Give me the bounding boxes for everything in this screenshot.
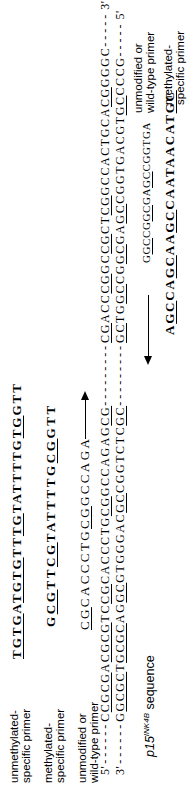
sequence-segment: CCCG: [113, 56, 127, 95]
sequence-segment: CG: [113, 264, 127, 284]
gene-name: p15: [143, 736, 157, 757]
sequence-segment: GC: [113, 323, 127, 343]
sequence-segment: GTGGGAC: [113, 513, 127, 583]
top-strand-tail-dashes: -----: [99, 12, 111, 47]
bottom-strand-5prime-end: 5': [114, 8, 126, 21]
methylated-primer-label-line1: methylated-: [42, 709, 54, 783]
sequence-segment: TATTTTG: [9, 438, 24, 513]
top-strand-3prime-end: 3': [99, 0, 111, 12]
genomic-top-strand: 5'------CCGCGACGCGTCCGCACCCTGCGGCCAGAGCG…: [99, 0, 111, 777]
sequence-segment: GTT: [43, 403, 58, 438]
sequence-segment: A: [98, 662, 112, 672]
bottom-strand-sequence-2: GCTGGCCGGCGAGCCGGTGACGTGCCCCG: [114, 56, 126, 342]
sequence-segment: CGGTCTC: [113, 426, 127, 493]
sequence-segment: GC: [140, 205, 152, 221]
sequence-segment: GC: [162, 301, 177, 324]
gene-sequence-label: p15INK4B sequence: [142, 655, 157, 757]
wildtype-reverse-primer-label: unmodified or wild-type primer: [132, 32, 156, 113]
sequence-segment: CG: [98, 323, 112, 343]
sequence-segment: AG: [113, 603, 127, 624]
sequence-segment: A: [9, 603, 24, 613]
sequence-segment: CG: [98, 584, 112, 604]
sequence-segment: CACCCTG: [98, 516, 112, 584]
msp-primer-diagram: unmethylated- specific primer TGTGATGTGT…: [0, 0, 188, 787]
sequence-segment: TG: [9, 416, 24, 439]
unmethylated-primer-label-line1: unmethylated-: [8, 709, 20, 783]
sequence-segment: GC: [162, 210, 177, 233]
top-strand-5prime-end: 5': [99, 764, 111, 777]
sequence-segment: GC: [113, 95, 127, 115]
sequence-segment: TT: [9, 536, 24, 557]
gene-label-rest: sequence: [143, 655, 157, 713]
bottom-strand-3prime-end: 3': [114, 764, 126, 777]
sequence-segment: CG: [43, 439, 58, 464]
sequence-segment: TATTTTG: [43, 463, 58, 542]
sequence-segment: GC: [113, 493, 127, 513]
wildtype-forward-primer-sequence: CGCACCCTGCGGCCAGA: [78, 437, 91, 630]
sequence-segment: GTT: [9, 382, 24, 415]
wildtype-forward-primer-label: unmodified or wild-type primer: [76, 702, 100, 783]
gene-superscript: INK4B: [142, 713, 151, 736]
methylated-primer-label-line2: specific primer: [54, 709, 66, 783]
sequence-segment: AA: [162, 233, 177, 255]
sequence-segment: GCCACTGCA: [98, 107, 112, 195]
sequence-segment: TG: [9, 513, 24, 536]
sequence-segment: GCGC: [113, 672, 127, 712]
sequence-segment: GC: [113, 583, 127, 603]
sequence-segment: CG: [140, 221, 152, 237]
sequence-segment: CG: [98, 195, 112, 215]
sequence-segment: TGTG: [9, 557, 24, 603]
methylated-reverse-primer-label-line1: methylated-: [162, 31, 174, 105]
top-strand-mid-dashes: ---------: [99, 343, 111, 406]
sequence-segment: CG: [98, 496, 112, 516]
sequence-segment: G: [113, 712, 127, 722]
sequence-segment: GA: [113, 224, 127, 245]
sequence-segment: C: [98, 712, 112, 722]
sequence-segment: TC: [98, 604, 112, 623]
sequence-segment: GC: [140, 238, 152, 254]
sequence-segment: CGCG: [98, 672, 112, 712]
sequence-segment: TT: [43, 567, 58, 590]
methylated-primer-label: methylated- specific primer: [42, 709, 66, 783]
sequence-segment: TGTG: [9, 613, 24, 659]
sequence-segment: CG: [98, 87, 112, 107]
bottom-strand-mid-dashes: ---------: [114, 343, 126, 406]
methylated-reverse-primer-label-line2: specific primer: [174, 31, 186, 105]
top-strand-sequence-2: CGACCCGGCCGCTCGGCCACTGCACGGGGC: [99, 47, 111, 343]
sequence-segment: CT: [98, 215, 112, 234]
bottom-strand-lead-dashes: ------: [114, 722, 126, 764]
wildtype-reverse-primer-label-line1: unmodified or: [132, 32, 144, 113]
bottom-strand-sequence-1: GGCGCTGCGCAGGCGTGGGACGCCGGTCTCGC: [114, 406, 126, 722]
methylated-reverse-primer-label: methylated- specific primer: [162, 31, 186, 105]
sequence-segment: GC: [98, 254, 112, 274]
sequence-segment: CG: [43, 590, 58, 615]
sequence-segment: CGGTGACGT: [113, 115, 127, 203]
sequence-segment: CAATAACAT: [162, 113, 177, 209]
wildtype-reverse-primer-label-line2: wild-type primer: [144, 32, 156, 113]
genomic-bottom-strand: 3'------GGCGCTGCGCAGGCGTGGGACGCCGGTCTCGC…: [114, 8, 126, 777]
methylated-reverse-primer-sequence: AGCCAGCAAGCCAATAACATGC: [163, 90, 176, 335]
sequence-segment: GCGC: [113, 623, 127, 663]
sequence-segment: ACC: [98, 294, 112, 323]
sequence-segment: A: [162, 324, 177, 335]
sequence-segment: GC: [113, 244, 127, 264]
wildtype-forward-primer-label-line1: unmodified or: [76, 702, 88, 783]
sequence-segment: CGGTGA: [140, 122, 152, 171]
sequence-segment: TG: [113, 304, 127, 323]
sequence-segment: GCCAGA: [77, 437, 92, 506]
sequence-segment: CG: [98, 406, 112, 426]
sequence-segment: GGGC: [98, 47, 112, 87]
sequence-segment: GC: [113, 284, 127, 304]
wildtype-reverse-primer-sequence: GGCCGGCGAGCCGGTGA: [140, 122, 153, 263]
sequence-segment: GA: [140, 188, 152, 205]
sequence-segment: GC: [113, 406, 127, 426]
sequence-segment: GC: [162, 255, 177, 278]
methylated-forward-primer-sequence: GCGTTCGTATTTTGCGGTT: [44, 403, 57, 627]
reverse-primer-direction-arrow-icon: [148, 295, 149, 363]
sequence-segment: CGCG: [98, 622, 112, 662]
sequence-segment: GCCAGAG: [98, 426, 112, 497]
sequence-segment: CG: [43, 542, 58, 567]
forward-primer-direction-arrow-icon: [85, 393, 86, 439]
sequence-segment: GC: [140, 171, 152, 187]
sequence-segment: CG: [77, 607, 92, 630]
